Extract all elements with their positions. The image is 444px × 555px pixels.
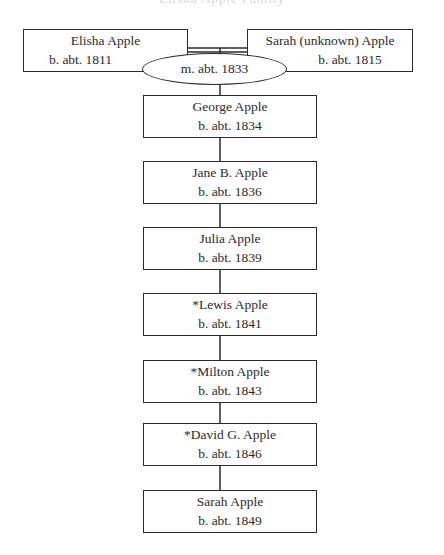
person-birth: b. abt. 1834 — [144, 116, 316, 135]
person-name: *Lewis Apple — [144, 294, 316, 314]
child-box: Jane B. Apple b. abt. 1836 — [143, 161, 317, 204]
person-birth: b. abt. 1849 — [144, 511, 316, 530]
person-birth: b. abt. 1843 — [144, 381, 316, 400]
person-name: Elisha Apple — [24, 30, 187, 50]
person-name: *Milton Apple — [144, 361, 316, 381]
child-box: *Milton Apple b. abt. 1843 — [143, 360, 317, 403]
child-box: Sarah Apple b. abt. 1849 — [143, 490, 317, 533]
person-birth: b. abt. 1839 — [144, 248, 316, 267]
child-box: Julia Apple b. abt. 1839 — [143, 227, 317, 270]
child-box: George Apple b. abt. 1834 — [143, 95, 317, 138]
person-name: Sarah Apple — [144, 491, 316, 511]
person-birth: b. abt. 1846 — [144, 444, 316, 463]
person-name: Jane B. Apple — [144, 162, 316, 182]
person-name: *David G. Apple — [144, 424, 316, 444]
person-birth: b. abt. 1836 — [144, 182, 316, 201]
person-birth: b. abt. 1841 — [144, 314, 316, 333]
marriage-ellipse: m. abt. 1833 — [142, 53, 287, 85]
child-box: *David G. Apple b. abt. 1846 — [143, 423, 317, 466]
person-name: Sarah (unknown) Apple — [248, 30, 412, 50]
person-name: George Apple — [144, 96, 316, 116]
child-box: *Lewis Apple b. abt. 1841 — [143, 293, 317, 336]
person-name: Julia Apple — [144, 228, 316, 248]
